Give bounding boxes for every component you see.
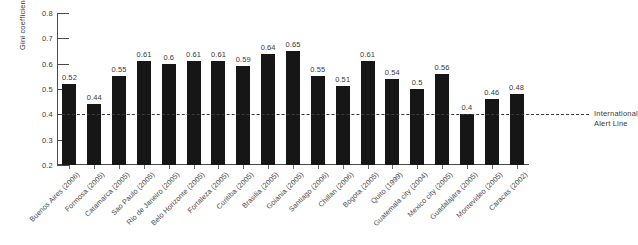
bar-group: 0.5 bbox=[405, 13, 430, 165]
bar-value-label: 0.6 bbox=[163, 53, 174, 62]
bar-group: 0.46 bbox=[479, 13, 504, 165]
y-axis-tick-label: 0.5 bbox=[42, 85, 53, 94]
bar bbox=[510, 94, 524, 165]
x-axis-tick bbox=[368, 165, 369, 169]
bar-value-label: 0.56 bbox=[435, 63, 450, 72]
bar-group: 0.4 bbox=[454, 13, 479, 165]
bar-value-label: 0.44 bbox=[87, 93, 102, 102]
bar-value-label: 0.46 bbox=[484, 88, 499, 97]
y-axis-tick-label: 0.3 bbox=[42, 135, 53, 144]
bar-group: 0.59 bbox=[231, 13, 256, 165]
bar-value-label: 0.61 bbox=[211, 50, 226, 59]
y-axis-tick-label: 0.4 bbox=[42, 110, 53, 119]
bar bbox=[137, 61, 151, 165]
x-axis-tick bbox=[69, 165, 70, 169]
bar-group: 0.54 bbox=[380, 13, 405, 165]
bar bbox=[435, 74, 449, 165]
bar-value-label: 0.52 bbox=[62, 73, 77, 82]
bar bbox=[361, 61, 375, 165]
bar-series: 0.520.440.550.610.60.610.610.590.640.650… bbox=[57, 13, 529, 165]
bar-group: 0.52 bbox=[57, 13, 82, 165]
plot-area: 0.80.70.60.50.40.30.2 0.520.440.550.610.… bbox=[57, 13, 529, 165]
x-axis-tick bbox=[417, 165, 418, 169]
bar bbox=[87, 104, 101, 165]
bar-value-label: 0.5 bbox=[412, 78, 423, 87]
bar bbox=[460, 114, 474, 165]
bar bbox=[261, 54, 275, 165]
y-axis-tick-label: 0.7 bbox=[42, 34, 53, 43]
x-axis-tick bbox=[343, 165, 344, 169]
bar-group: 0.61 bbox=[181, 13, 206, 165]
bar-group: 0.56 bbox=[430, 13, 455, 165]
bar-group: 0.51 bbox=[330, 13, 355, 165]
x-axis-tick bbox=[169, 165, 170, 169]
y-axis-tick-label: 0.6 bbox=[42, 59, 53, 68]
bar-value-label: 0.4 bbox=[462, 103, 473, 112]
y-axis-tick-label: 0.2 bbox=[42, 161, 53, 170]
bar-value-label: 0.61 bbox=[136, 50, 151, 59]
x-axis-tick bbox=[517, 165, 518, 169]
bar-value-label: 0.59 bbox=[236, 55, 251, 64]
bar bbox=[410, 89, 424, 165]
x-axis-category-labels: Buenos Aires (2006)Formosa (2005)Catamar… bbox=[57, 170, 529, 242]
bar bbox=[62, 84, 76, 165]
bar-value-label: 0.64 bbox=[261, 43, 276, 52]
bar bbox=[385, 79, 399, 165]
y-axis-title: Gini coefficient bbox=[18, 0, 27, 50]
bar bbox=[286, 51, 300, 165]
x-axis-tick bbox=[243, 165, 244, 169]
bar-value-label: 0.51 bbox=[335, 75, 350, 84]
y-axis-tick: 0.2 bbox=[57, 165, 69, 166]
international-alert-line-label: InternationalAlert Line bbox=[594, 109, 638, 129]
bar bbox=[311, 76, 325, 165]
bar bbox=[211, 61, 225, 165]
bar-group: 0.61 bbox=[355, 13, 380, 165]
bar bbox=[112, 76, 126, 165]
x-axis-tick bbox=[392, 165, 393, 169]
x-axis-tick bbox=[442, 165, 443, 169]
y-axis-tick-label: 0.8 bbox=[42, 9, 53, 18]
bar-value-label: 0.65 bbox=[285, 40, 300, 49]
bar-group: 0.55 bbox=[305, 13, 330, 165]
bar-value-label: 0.55 bbox=[310, 65, 325, 74]
bar-group: 0.64 bbox=[256, 13, 281, 165]
bar-value-label: 0.61 bbox=[360, 50, 375, 59]
x-axis-tick bbox=[268, 165, 269, 169]
x-axis-tick bbox=[194, 165, 195, 169]
bar-group: 0.44 bbox=[82, 13, 107, 165]
bar bbox=[336, 86, 350, 165]
x-axis-tick bbox=[318, 165, 319, 169]
x-axis-tick bbox=[119, 165, 120, 169]
bar-value-label: 0.55 bbox=[112, 65, 127, 74]
bar-group: 0.48 bbox=[504, 13, 529, 165]
x-axis-tick bbox=[144, 165, 145, 169]
international-alert-line bbox=[57, 114, 589, 115]
bar-group: 0.61 bbox=[206, 13, 231, 165]
bar bbox=[236, 66, 250, 165]
bar-group: 0.61 bbox=[132, 13, 157, 165]
bar-group: 0.55 bbox=[107, 13, 132, 165]
x-axis-tick bbox=[293, 165, 294, 169]
x-axis-tick bbox=[218, 165, 219, 169]
alert-label-line-2: Alert Line bbox=[594, 119, 638, 129]
bar-group: 0.6 bbox=[156, 13, 181, 165]
bar-value-label: 0.54 bbox=[385, 68, 400, 77]
bar-value-label: 0.61 bbox=[186, 50, 201, 59]
bar-group: 0.65 bbox=[281, 13, 306, 165]
x-axis-tick bbox=[492, 165, 493, 169]
alert-label-line-1: International bbox=[594, 109, 638, 119]
bar bbox=[187, 61, 201, 165]
x-axis-tick bbox=[94, 165, 95, 169]
x-axis-tick bbox=[467, 165, 468, 169]
bar bbox=[485, 99, 499, 165]
bar-value-label: 0.48 bbox=[509, 83, 524, 92]
